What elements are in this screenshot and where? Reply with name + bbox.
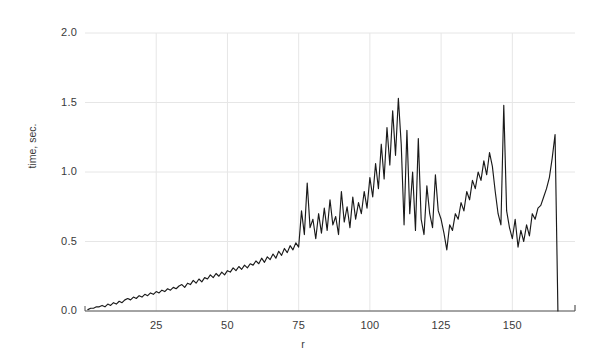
x-tick-label: 100 — [350, 319, 390, 331]
x-tick-label: 25 — [136, 319, 176, 331]
x-tick-label: 75 — [279, 319, 319, 331]
data-series-line — [88, 98, 558, 311]
chart-container: 0.00.51.01.52.0 255075100125150 time, se… — [0, 0, 606, 358]
y-tick-label: 2.0 — [43, 26, 77, 38]
x-tick-label: 50 — [207, 319, 247, 331]
y-tick-label: 0.0 — [43, 304, 77, 316]
x-axis-title: r — [0, 338, 606, 350]
x-tick-label: 125 — [421, 319, 461, 331]
plot-canvas — [0, 0, 606, 358]
series-line-time — [88, 98, 558, 311]
y-axis-title: time, sec. — [26, 106, 38, 186]
y-tick-label: 1.0 — [43, 165, 77, 177]
tick-marks — [85, 305, 575, 311]
y-tick-label: 0.5 — [43, 235, 77, 247]
gridlines — [85, 33, 575, 311]
y-tick-label: 1.5 — [43, 96, 77, 108]
x-tick-label: 150 — [492, 319, 532, 331]
